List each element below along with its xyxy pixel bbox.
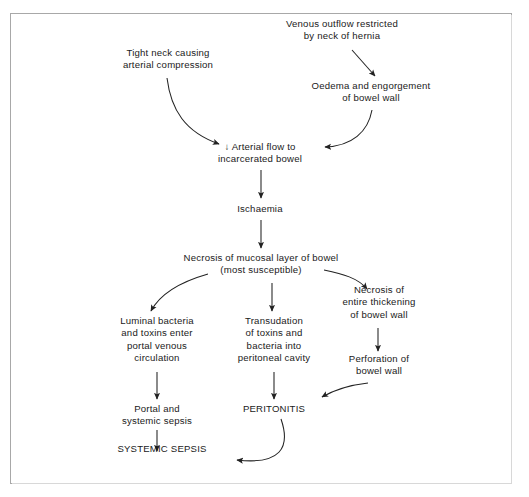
node-text-line: portal venous [105,340,209,352]
node-perforation-bowel-wall: Perforation of bowel wall [330,353,428,378]
node-text-line: bacteria into [222,340,326,352]
node-text-line: Oedema and engorgement [297,80,445,92]
arrow-venous-outflow-to-oedema [352,50,375,76]
node-portal-systemic-sepsis: Portal and systemic sepsis [105,403,209,428]
node-text-line: arterial compression [103,59,233,71]
node-text-line: peritoneal cavity [222,352,326,364]
node-necrosis-mucosal-layer: Necrosis of mucosal layer of bowel (most… [178,252,344,277]
arrow-oedema-to-arterial-flow [325,110,372,147]
node-systemic-sepsis: SYSTEMIC SEPSIS [106,443,218,455]
node-text-line: of bowel wall [330,309,428,321]
node-text-line: Portal and [105,403,209,415]
diagram-arrows-layer [0,0,529,497]
node-text-line: systemic sepsis [105,415,209,427]
node-text-line: Ischaemia [226,203,294,215]
node-text-line: Perforation of [330,353,428,365]
node-tight-neck-arterial-compression: Tight neck causing arterial compression [103,47,233,72]
node-text-line: Venous outflow restricted [268,18,416,30]
node-text-line: Tight neck causing [103,47,233,59]
arrow-necrosis-mucosal-to-luminal-bacteria [151,274,208,311]
node-text-line: Luminal bacteria [105,315,209,327]
node-text-line: bowel wall [330,365,428,377]
arrow-perforation-to-peritonitis [322,383,368,397]
node-arterial-flow-incarcerated-bowel: ↓ Arterial flow to incarcerated bowel [198,141,322,166]
node-text-line: by neck of hernia [268,30,416,42]
node-ischaemia: Ischaemia [226,203,294,215]
node-text-line: and toxins enter [105,327,209,339]
node-oedema-engorgement: Oedema and engorgement of bowel wall [297,80,445,105]
node-text-line: (most susceptible) [178,264,344,276]
node-text-line: circulation [105,352,209,364]
node-text-line: ↓ Arterial flow to [198,141,322,153]
arrow-peritonitis-to-systemic-sepsis [237,419,284,461]
node-venous-outflow-restricted: Venous outflow restricted by neck of her… [268,18,416,43]
diagram-page: Venous outflow restricted by neck of her… [0,0,529,497]
node-text-line: Necrosis of [330,284,428,296]
node-text-line: entire thickening [330,296,428,308]
node-text-line: of toxins and [222,327,326,339]
node-text-line: of bowel wall [297,92,445,104]
node-transudation-toxins-bacteria: Transudation of toxins and bacteria into… [222,315,326,365]
node-text-line: PERITONITIS [229,403,319,415]
node-luminal-bacteria-portal-venous: Luminal bacteria and toxins enter portal… [105,315,209,365]
node-text-line: Necrosis of mucosal layer of bowel [178,252,344,264]
arrow-tight-neck-to-arterial-flow [167,78,219,144]
node-text-line: SYSTEMIC SEPSIS [106,443,218,455]
node-necrosis-entire-thickening: Necrosis of entire thickening of bowel w… [330,284,428,321]
node-peritonitis: PERITONITIS [229,403,319,415]
node-text-line: incarcerated bowel [198,153,322,165]
node-text-line: Transudation [222,315,326,327]
